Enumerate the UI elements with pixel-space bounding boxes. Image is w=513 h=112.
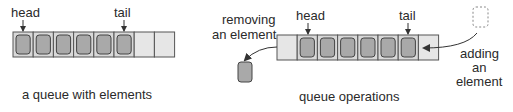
removing-label-line1: removing bbox=[222, 12, 275, 27]
queue-cell bbox=[154, 32, 174, 57]
queue-element bbox=[381, 38, 395, 57]
queue-element bbox=[16, 35, 30, 54]
removing-arrow bbox=[245, 47, 277, 60]
adding-label-line3: element bbox=[456, 74, 503, 89]
queue-element bbox=[300, 38, 314, 57]
queue-element bbox=[117, 35, 131, 54]
left-head-label: head bbox=[11, 5, 40, 20]
queue-element bbox=[77, 35, 91, 54]
right-queue bbox=[277, 35, 439, 60]
queue-element bbox=[56, 35, 70, 54]
left-tail-label: tail bbox=[114, 5, 131, 20]
right-head-label: head bbox=[296, 8, 325, 23]
queue-cell bbox=[134, 32, 154, 57]
right-caption: queue operations bbox=[299, 89, 400, 104]
right-tail-label: tail bbox=[399, 8, 416, 23]
left-caption: a queue with elements bbox=[22, 87, 153, 102]
removed-element bbox=[238, 62, 252, 82]
new-element-dashed bbox=[473, 7, 488, 27]
adding-label-line2: an bbox=[472, 60, 486, 75]
queue-cell bbox=[277, 35, 297, 60]
queue-element bbox=[341, 38, 355, 57]
queue-element bbox=[36, 35, 50, 54]
queue-element bbox=[361, 38, 375, 57]
queue-element bbox=[320, 38, 334, 57]
adding-label-line1: adding bbox=[460, 46, 499, 61]
queue-element bbox=[97, 35, 111, 54]
queue-element bbox=[401, 38, 415, 57]
removing-label-line2: an element bbox=[212, 27, 277, 42]
left-queue bbox=[13, 32, 175, 57]
queue-diagram: head tail a queue with elements head tai… bbox=[0, 0, 513, 112]
